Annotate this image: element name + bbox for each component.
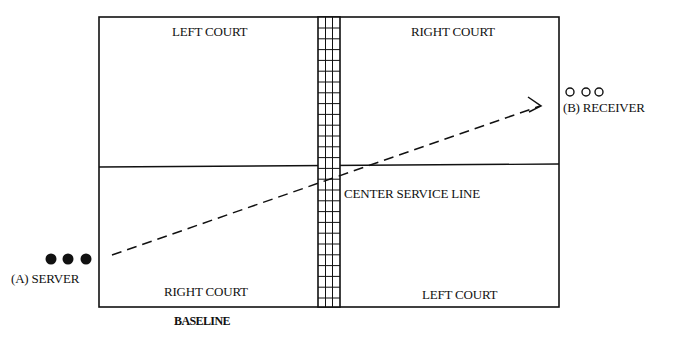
net <box>318 17 340 307</box>
label-center-service-line: CENTER SERVICE LINE <box>344 186 480 202</box>
label-baseline: BASELINE <box>174 314 230 329</box>
court-drawing <box>0 0 678 339</box>
arrowhead-icon <box>528 97 541 112</box>
receiver-circles-icon <box>566 88 603 96</box>
label-bottom-left-court: RIGHT COURT <box>164 284 248 300</box>
label-top-right-court: RIGHT COURT <box>411 24 495 40</box>
server-dots-icon <box>46 254 92 265</box>
label-server: (A) SERVER <box>11 271 79 287</box>
label-bottom-right-court: LEFT COURT <box>422 287 497 303</box>
label-receiver: (B) RECEIVER <box>563 100 645 116</box>
label-top-left-court: LEFT COURT <box>172 24 247 40</box>
